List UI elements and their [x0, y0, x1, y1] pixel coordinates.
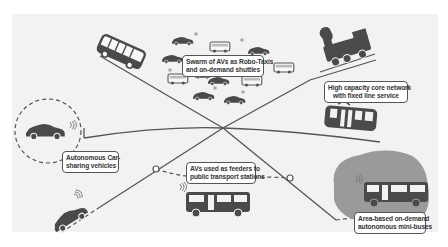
label-car-sharing-line2: sharing vehicles — [66, 162, 115, 170]
car-icon — [224, 96, 245, 105]
label-mini-buses-line2: autonomous mini-buses — [358, 223, 422, 231]
shuttle-icon — [242, 76, 262, 87]
car-icon — [193, 92, 214, 101]
label-feeders-line1: AVs used as feeders to — [190, 165, 252, 173]
feeder-minibus-icon — [186, 192, 250, 217]
label-mini-buses: Area-based on-demand autonomous mini-bus… — [354, 212, 426, 234]
wifi-signal-icon — [180, 182, 187, 192]
car-icon — [208, 77, 229, 86]
wifi-signal-icon — [70, 120, 77, 130]
shuttle-icon — [274, 63, 294, 74]
label-core-network-line1: High capacity core network — [328, 84, 404, 92]
car-icon — [172, 37, 193, 46]
label-feeders: AVs used as feeders to public transport … — [186, 162, 256, 184]
label-swarm-line1: Swarm of AVs as Robo-Taxis — [186, 58, 260, 66]
label-feeders-line2: public transport stations — [190, 173, 252, 181]
label-car-sharing: Autonomous Car- sharing vehicles — [62, 151, 119, 173]
label-core-network-line2: with fixed line service — [328, 92, 404, 100]
label-mini-buses-line1: Area-based on-demand — [358, 215, 422, 223]
autonomous-car-icon — [50, 202, 90, 235]
diagram-scene — [0, 0, 448, 247]
car-sharing-car-icon — [26, 124, 65, 140]
steam-train-icon — [318, 16, 373, 68]
label-core-network: High capacity core network with fixed li… — [324, 81, 408, 103]
shuttle-icon — [210, 42, 230, 53]
feeder-station-right-node — [287, 175, 293, 181]
label-swarm-line2: and on-demand shuttles — [186, 66, 260, 74]
bus-icon — [95, 34, 146, 72]
car-icon — [162, 55, 183, 64]
feeder-station-left-node — [153, 166, 159, 172]
wifi-signal-icon — [73, 188, 84, 200]
label-swarm: Swarm of AVs as Robo-Taxis and on-demand… — [182, 55, 264, 77]
label-car-sharing-line1: Autonomous Car- — [66, 154, 115, 162]
tram-icon — [324, 99, 378, 131]
